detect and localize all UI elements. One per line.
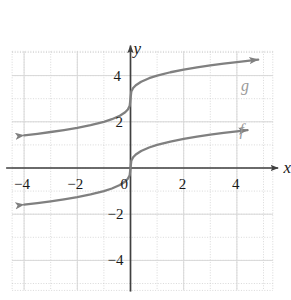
x-tick-label-neg2: −2: [67, 177, 83, 192]
x-axis-label: x: [283, 159, 291, 176]
curve-label-f: f: [240, 122, 244, 138]
y-tick-label-neg4: −4: [108, 253, 124, 268]
graph-figure: −4 −2 0 2 4 4 2 −2 −4 x y g f: [0, 0, 291, 300]
y-tick-label-4: 4: [114, 69, 122, 84]
y-axis-label: y: [134, 40, 142, 57]
curve-paths: [24, 60, 258, 205]
y-tick-label-2: 2: [116, 115, 124, 130]
x-tick-label-4: 4: [232, 177, 240, 192]
curve-g: [24, 60, 258, 136]
y-tick-label-neg2: −2: [108, 207, 124, 222]
coordinate-plane: [0, 0, 291, 300]
x-tick-label-zero: 0: [121, 177, 129, 192]
grid-minor-lines: [12, 51, 273, 290]
curve-label-g: g: [241, 78, 249, 94]
x-tick-label-neg4: −4: [14, 177, 30, 192]
x-tick-label-2: 2: [179, 177, 187, 192]
grid-major-lines: [12, 51, 273, 290]
